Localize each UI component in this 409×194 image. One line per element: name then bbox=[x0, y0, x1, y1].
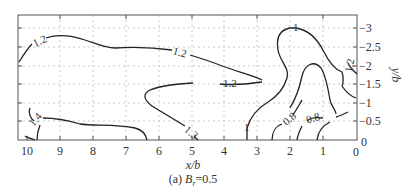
svg-text:−2: −2 bbox=[359, 59, 372, 73]
figure-caption: (a) Br=0.5 bbox=[169, 172, 218, 188]
contour-label: 1.2 bbox=[342, 58, 356, 74]
svg-text:−3: −3 bbox=[359, 21, 372, 35]
x-axis-label: x/b bbox=[185, 158, 201, 172]
svg-text:5: 5 bbox=[189, 144, 195, 158]
svg-text:1: 1 bbox=[320, 144, 326, 158]
svg-text:10: 10 bbox=[21, 144, 33, 158]
svg-text:0: 0 bbox=[361, 135, 367, 149]
contour-label: 1.2 bbox=[223, 77, 237, 89]
contour-label: 1 bbox=[244, 121, 250, 133]
contour-chart: 1.2 1.2 1.2 1.3 1 1 1.4 0.8 0.8 1.2 10 9… bbox=[0, 0, 409, 194]
svg-text:0: 0 bbox=[353, 145, 359, 159]
svg-text:4: 4 bbox=[221, 144, 227, 158]
y-tick-labels: 0 −0.5 −1 −1.5 −2 −2.5 −3 bbox=[359, 21, 381, 149]
svg-text:−1: −1 bbox=[359, 96, 372, 110]
svg-text:9: 9 bbox=[57, 144, 63, 158]
contour-label: 1.2 bbox=[172, 44, 188, 59]
svg-text:3: 3 bbox=[254, 144, 260, 158]
svg-text:7: 7 bbox=[123, 144, 129, 158]
svg-text:6: 6 bbox=[156, 144, 162, 158]
y-tick-marks bbox=[18, 28, 357, 121]
contour-label: 1 bbox=[293, 21, 299, 33]
svg-text:−0.5: −0.5 bbox=[359, 114, 381, 128]
svg-text:8: 8 bbox=[90, 144, 96, 158]
y-axis-label: y/b bbox=[389, 67, 403, 83]
svg-text:−2.5: −2.5 bbox=[359, 40, 381, 54]
contour-labels: 1.2 1.2 1.2 1.3 1 1 1.4 0.8 0.8 1.2 bbox=[26, 21, 356, 142]
svg-text:−1.5: −1.5 bbox=[359, 77, 381, 91]
x-tick-labels: 10 9 8 7 6 5 4 3 2 1 0 bbox=[21, 144, 359, 159]
contour-label: 1.3 bbox=[182, 123, 201, 141]
contour-label: 0.8 bbox=[305, 110, 322, 125]
svg-text:2: 2 bbox=[287, 144, 293, 158]
contour-label: 0.8 bbox=[280, 109, 299, 127]
